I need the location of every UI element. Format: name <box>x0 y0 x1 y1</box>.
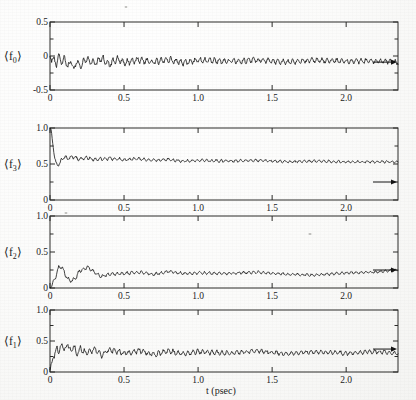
panel-f3: 00.51.000.51.01.52.0⟨f3⟩ <box>4 123 398 213</box>
panel-f0-xtick-label: 2.0 <box>340 93 352 103</box>
panel-f0-ytick-label: 0.5 <box>36 17 48 27</box>
panel-f2-xtick-label: 2.0 <box>340 291 352 301</box>
panel-f1-ylabel-text: ⟨f1⟩ <box>4 335 22 350</box>
panel-f1-trace <box>50 344 398 370</box>
panel-f2-ytick-label: 0.5 <box>36 247 48 257</box>
panel-f3-ylabel: ⟨f3⟩ <box>4 158 22 173</box>
scan-speck-0 <box>125 6 128 8</box>
panel-f2-ylabel-text: ⟨f2⟩ <box>4 246 22 261</box>
panel-f3-xtick-label: 0.5 <box>118 203 130 213</box>
panel-f1-xtick-label: 0.5 <box>118 375 130 385</box>
panel-f0-ylabel: ⟨f0⟩ <box>4 50 22 65</box>
panel-f1-ylabel: ⟨f1⟩ <box>4 335 22 350</box>
panel-f2-xtick-label: 1.5 <box>266 291 278 301</box>
panel-f0-limit-arrow-head <box>391 60 397 65</box>
panel-f2-limit-arrow-head <box>391 267 397 272</box>
panel-f2-xtick-label: 0.5 <box>118 291 130 301</box>
panel-f3-ylabel-text: ⟨f3⟩ <box>4 158 22 173</box>
panel-f0-xtick-label: 1.5 <box>266 93 278 103</box>
panel-f0-frame <box>50 22 398 90</box>
panel-f0-xtick-label: 1.0 <box>192 93 204 103</box>
panel-f3-xtick-label: 2.0 <box>340 203 352 213</box>
panel-f1-frame <box>50 310 398 372</box>
panel-f1-xtick-label: 0 <box>48 375 53 385</box>
panel-f1-limit-arrow-head <box>391 346 397 351</box>
panel-f2: 00.51.000.51.01.52.0⟨f2⟩ <box>4 211 398 301</box>
panel-f1-xtick-label: 2.0 <box>340 375 352 385</box>
panel-f0-ytick-label: 0 <box>43 51 48 61</box>
scan-speck-2 <box>65 212 68 214</box>
panel-f1-xtick-label: 1.5 <box>266 375 278 385</box>
panel-f2-frame <box>50 216 398 288</box>
scan-speck-3 <box>295 351 297 353</box>
panel-f2-ytick-label: 1.0 <box>36 211 48 221</box>
panel-f3-limit-arrow-head <box>391 179 397 184</box>
panel-f0-xtick-label: 0.5 <box>118 93 130 103</box>
panel-f3-trace <box>50 128 398 166</box>
panel-f3-xtick-label: 1.5 <box>266 203 278 213</box>
panel-f2-xtick-label: 0 <box>48 291 53 301</box>
panel-f3-ytick-label: 1.0 <box>36 123 48 133</box>
panel-f3-xtick-label: 0 <box>48 203 53 213</box>
panel-f0-ylabel-text: ⟨f0⟩ <box>4 50 22 65</box>
x-axis-label: t (psec) <box>206 385 236 397</box>
panel-f1-xtick-label: 1.0 <box>192 375 204 385</box>
scan-speck-1 <box>308 233 311 235</box>
panel-f3-ytick-label: 0.5 <box>36 159 48 169</box>
panel-f0-xtick-label: 0 <box>48 93 53 103</box>
panel-f0-ytick-label: -0.5 <box>33 85 48 95</box>
panel-f3-xtick-label: 1.0 <box>192 203 204 213</box>
plot-svg: -0.500.500.51.01.52.0⟨f0⟩00.51.000.51.01… <box>0 0 416 400</box>
figure-canvas: -0.500.500.51.01.52.0⟨f0⟩00.51.000.51.01… <box>0 0 416 400</box>
panel-f0: -0.500.500.51.01.52.0⟨f0⟩ <box>4 17 398 103</box>
panel-f1-ytick-label: 1.0 <box>36 305 48 315</box>
panel-f2-xtick-label: 1.0 <box>192 291 204 301</box>
panel-f1: 00.51.000.51.01.52.0⟨f1⟩ <box>4 305 398 385</box>
panel-f1-ytick-label: 0.5 <box>36 336 48 346</box>
panel-f0-trace <box>50 54 398 69</box>
panel-f3-frame <box>50 128 398 200</box>
panel-f2-ylabel: ⟨f2⟩ <box>4 246 22 261</box>
